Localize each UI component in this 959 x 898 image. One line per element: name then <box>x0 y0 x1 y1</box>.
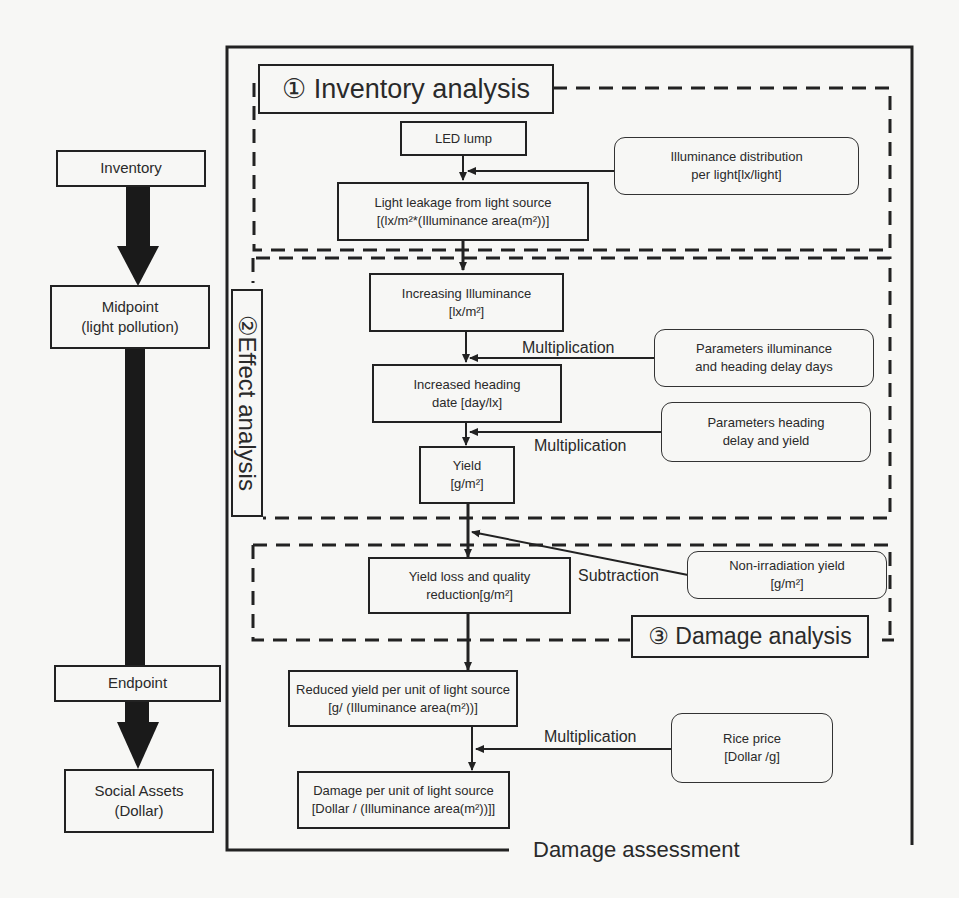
damage-analysis-title: ③ Damage analysis <box>631 615 869 658</box>
lca-diagram: Inventory Midpoint (light pollution) End… <box>0 0 959 898</box>
led-lump-text: LED lump <box>435 130 492 148</box>
non-irradiation-yield-param: Non-irradiation yield [g/m²] <box>687 551 887 599</box>
rice-price-param: Rice price [Dollar /g] <box>671 713 833 783</box>
led-lump-node: LED lump <box>400 121 527 156</box>
light-leakage-node: Light leakage from light source [(lx/m²*… <box>337 182 589 241</box>
subtraction-label: Subtraction <box>578 567 659 585</box>
increasing-illuminance-node: Increasing Illuminance [lx/m²] <box>369 273 564 332</box>
midpoint-label: Midpoint <box>102 297 159 317</box>
params-illuminance-heading-param: Parameters illuminance and heading delay… <box>654 329 874 387</box>
increased-heading-unit: date [day/lx] <box>432 394 502 412</box>
midpoint-sublabel: (light pollution) <box>81 317 179 337</box>
endpoint-label: Endpoint <box>108 673 167 693</box>
rice-price-unit: [Dollar /g] <box>724 748 780 766</box>
social-assets-sublabel: (Dollar) <box>114 801 163 821</box>
damage-per-unit-text: Damage per unit of light source <box>313 782 494 800</box>
params-heading-yield-param: Parameters heading delay and yield <box>661 402 871 462</box>
damage-analysis-text: ③ Damage analysis <box>648 623 851 650</box>
params-illuminance-text: Parameters illuminance <box>696 340 832 358</box>
light-leakage-text: Light leakage from light source <box>374 194 551 212</box>
inventory-analysis-text: ① Inventory analysis <box>282 73 530 105</box>
inventory-label: Inventory <box>100 158 162 178</box>
midpoint-box: Midpoint (light pollution) <box>50 285 210 349</box>
yield-loss-node: Yield loss and quality reduction[g/m²] <box>368 557 571 614</box>
yield-node: Yield [g/m²] <box>419 446 515 504</box>
non-irradiation-text: Non-irradiation yield <box>729 557 845 575</box>
params-heading-text-2: delay and yield <box>723 432 810 450</box>
damage-assessment-label: Damage assessment <box>533 837 740 863</box>
reduced-yield-node: Reduced yield per unit of light source [… <box>288 670 518 727</box>
social-assets-box: Social Assets (Dollar) <box>64 769 214 833</box>
increasing-illuminance-text: Increasing Illuminance <box>402 285 531 303</box>
inventory-analysis-title: ① Inventory analysis <box>258 64 554 114</box>
light-leakage-unit: [(lx/m²*(Illuminance area(m²))] <box>377 212 550 230</box>
endpoint-box: Endpoint <box>54 665 221 702</box>
damage-per-unit-unit: [Dollar / (Illuminance area(m²))]] <box>312 800 496 818</box>
increasing-illuminance-unit: [lx/m²] <box>449 303 484 321</box>
multiplication-label-2: Multiplication <box>534 437 626 455</box>
yield-loss-text: Yield loss and quality <box>409 568 531 586</box>
illuminance-distribution-unit: per light[lx/light] <box>691 166 781 184</box>
illuminance-distribution-param: Illuminance distribution per light[lx/li… <box>614 137 859 195</box>
illuminance-distribution-text: Illuminance distribution <box>670 148 802 166</box>
multiplication-label-1: Multiplication <box>522 339 614 357</box>
social-assets-label: Social Assets <box>94 781 183 801</box>
yield-loss-unit: reduction[g/m²] <box>426 586 513 604</box>
effect-analysis-text: ②Effect analysis <box>233 315 261 491</box>
effect-analysis-title: ②Effect analysis <box>231 289 263 517</box>
yield-unit: [g/m²] <box>450 475 483 493</box>
params-heading-text: Parameters heading <box>707 414 824 432</box>
damage-per-unit-node: Damage per unit of light source [Dollar … <box>297 771 510 829</box>
reduced-yield-unit: [g/ (Illuminance area(m²))] <box>328 699 478 717</box>
reduced-yield-text: Reduced yield per unit of light source <box>296 681 510 699</box>
params-illuminance-text-2: and heading delay days <box>695 358 832 376</box>
increased-heading-node: Increased heading date [day/lx] <box>372 364 562 423</box>
inventory-box: Inventory <box>56 150 206 187</box>
yield-text: Yield <box>453 457 481 475</box>
multiplication-label-3: Multiplication <box>544 728 636 746</box>
non-irradiation-unit: [g/m²] <box>770 575 803 593</box>
rice-price-text: Rice price <box>723 730 781 748</box>
increased-heading-text: Increased heading <box>414 376 521 394</box>
